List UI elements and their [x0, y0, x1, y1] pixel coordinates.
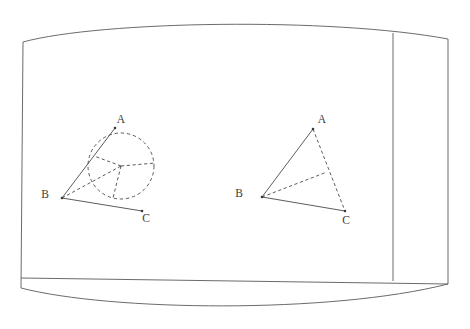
point-label-c: C — [342, 214, 350, 226]
vertex-dot-a — [114, 127, 117, 130]
whiteboard-canvas: ABC ABC — [0, 0, 470, 329]
vertex-dot-c — [344, 210, 347, 213]
vertex-dot-b — [261, 196, 264, 199]
point-label-a: A — [318, 113, 327, 125]
vertex-dot-a — [312, 128, 315, 131]
point-label-b: B — [235, 187, 243, 199]
point-label-a: A — [117, 113, 126, 125]
whiteboard-surface — [21, 24, 448, 306]
point-label-b: B — [41, 188, 49, 200]
whiteboard-container: ABC ABC — [0, 0, 470, 329]
point-label-c: C — [142, 212, 150, 224]
vertex-dot-b — [61, 197, 64, 200]
